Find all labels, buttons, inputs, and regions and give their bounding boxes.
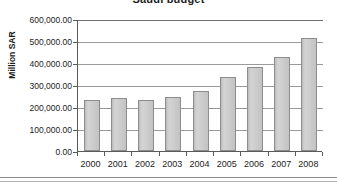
x-tick-mark: [131, 152, 132, 156]
y-tick-label: 200,000.00: [0, 103, 72, 113]
x-tick-label: 2003: [157, 159, 187, 169]
y-tick-label: 300,000.00: [0, 81, 72, 91]
bar: [138, 100, 154, 151]
x-tick-label: 2007: [266, 159, 296, 169]
bar: [301, 38, 317, 151]
x-tick-label: 2004: [185, 159, 215, 169]
x-tick-mark: [240, 152, 241, 156]
bar: [220, 77, 236, 151]
y-tick-label: 0.00: [0, 147, 72, 157]
page-rule-lower: [0, 181, 337, 182]
y-tick-label: 600,000.00: [0, 15, 72, 25]
plot-area: [77, 20, 322, 152]
x-tick-label: 2000: [76, 159, 106, 169]
bar: [111, 98, 127, 151]
bar: [247, 67, 263, 151]
bar: [84, 100, 100, 151]
bar: [274, 57, 290, 151]
x-tick-mark: [268, 152, 269, 156]
chart-title: Saudi budget: [0, 0, 337, 6]
gridline: [78, 20, 323, 21]
x-tick-mark: [295, 152, 296, 156]
x-tick-mark: [159, 152, 160, 156]
y-tick-label: 500,000.00: [0, 37, 72, 47]
bar: [165, 97, 181, 151]
x-tick-mark: [77, 152, 78, 156]
bar-chart: Saudi budget Million SAR 600,000.00500,0…: [0, 0, 337, 187]
x-tick-label: 2006: [239, 159, 269, 169]
x-tick-label: 2001: [103, 159, 133, 169]
bar: [193, 91, 209, 151]
x-tick-mark: [322, 152, 323, 156]
y-tick-label: 100,000.00: [0, 125, 72, 135]
x-tick-label: 2002: [130, 159, 160, 169]
x-tick-label: 2008: [293, 159, 323, 169]
gridline: [78, 42, 323, 43]
x-tick-mark: [186, 152, 187, 156]
page-rule-upper: [0, 177, 337, 178]
x-tick-label: 2005: [212, 159, 242, 169]
y-tick-label: 400,000.00: [0, 59, 72, 69]
x-tick-mark: [213, 152, 214, 156]
x-tick-mark: [104, 152, 105, 156]
